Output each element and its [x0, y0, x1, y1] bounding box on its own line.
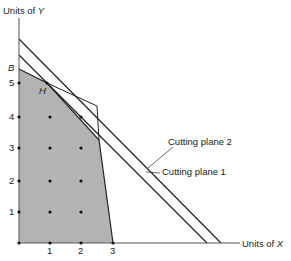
y-tick-1: 1 — [9, 207, 14, 217]
y-axis-label: Units of Y — [3, 6, 44, 16]
x-tick-1: 1 — [47, 246, 52, 256]
x-tick-3: 3 — [110, 246, 115, 256]
point-label-h: H — [39, 86, 46, 96]
y-tick-2: 2 — [9, 176, 14, 186]
leader-cutting-plane-2 — [148, 147, 173, 168]
x-axis-label: Units of X — [242, 239, 283, 249]
cutting-plane-2-label: Cutting plane 2 — [168, 137, 232, 147]
y-tick-5: 5 — [9, 78, 14, 88]
y-tick-4: 4 — [9, 112, 14, 122]
x-tick-2: 2 — [78, 246, 83, 256]
leader-cutting-plane-1 — [146, 172, 160, 173]
y-tick-3: 3 — [9, 143, 14, 153]
cutting-plane-1-label: Cutting plane 1 — [162, 167, 226, 177]
diagram-canvas — [0, 0, 291, 261]
feasible-region — [19, 69, 113, 243]
point-label-b: B — [8, 63, 14, 73]
